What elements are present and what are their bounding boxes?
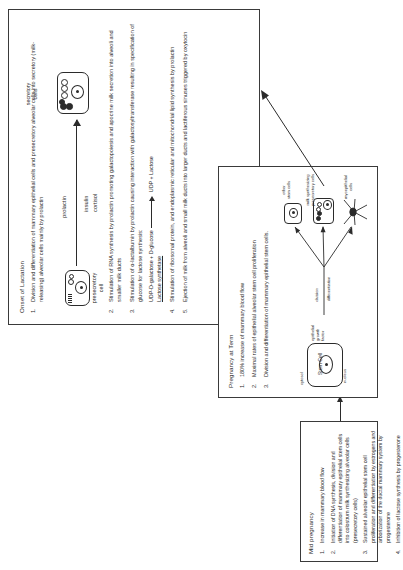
list-item-text: Increase in mammary blood flow: [319, 467, 325, 543]
presecretory-cell-output-icon: [313, 198, 334, 224]
presecretory-cell-label: presecretory cell: [91, 260, 105, 316]
list-item-number: 1.: [319, 545, 326, 554]
list-item-text: Stimulation of α-lactalbumin by prolacti…: [129, 24, 143, 302]
list-item: 1. 180% increase of mammary blood flow: [239, 175, 247, 388]
list-item-number: 2.: [251, 379, 259, 388]
list-item-number: 4.: [169, 304, 177, 313]
list-item-text: Ejection of milk from alveoli and small …: [182, 32, 188, 302]
myoepithelial-cells-label: myoepithelial cells: [343, 173, 353, 201]
reaction-arrow-group: [147, 194, 155, 228]
list-item: 4. Inhibition of lactose synthesis by pr…: [395, 428, 402, 554]
list-item: 2. Maximal rates of epithelial alveolar …: [251, 175, 259, 388]
lactose-reaction: UDP-D-galactose + D-glucose UDP + Lactos…: [147, 20, 163, 302]
list-item-text: Initiation of DNA synthesis, division an…: [330, 434, 358, 543]
hormone-insulin-label: insulin: [83, 196, 89, 212]
hormone-cortisol-label: cortisol: [92, 194, 98, 212]
list-item-text: 180% increase of mammary blood flow: [239, 283, 245, 377]
division-label: division: [314, 279, 319, 311]
list-item-text: Sustained alveolar epithelial stem cell …: [362, 431, 390, 543]
list-item: 3. Sustained alveolar epithelial stem ce…: [362, 428, 392, 554]
list-item-text: Maximal rates of epithelial alveolar ste…: [251, 240, 257, 377]
lactation-cell-diagram: presecretory cell secretory cells prolac…: [35, 18, 121, 310]
list-item-number: 4.: [395, 545, 402, 554]
list-item: 3. Stimulation of α-lactalbumin by prola…: [129, 20, 163, 313]
mid-pregnancy-list: 1. Increase in mammary blood flow 2. Ini…: [319, 428, 403, 554]
list-item: 4. Stimulation of ribosomal protein, and…: [169, 20, 177, 313]
hormone-prolactin-label: prolactin: [61, 196, 67, 218]
panel-pregnancy-at-term: Pregnancy at Term 1. 180% increase of ma…: [218, 166, 378, 398]
reaction-products: UDP + Lactose: [148, 156, 154, 192]
connector-term-to-lactation-icon: [258, 80, 328, 190]
panel-mid-pregnancy: Mid pregnancy 1. Increase in mammary blo…: [300, 421, 378, 562]
list-item-number: 3.: [362, 545, 369, 554]
list-item: 1. Increase in mammary blood flow: [319, 428, 326, 554]
reaction-reactants: UDP-D-galactose + D-glucose: [148, 230, 154, 302]
myoepithelial-cell-icon: [339, 197, 369, 227]
differentiation-label: differentiation: [326, 269, 331, 309]
list-item-text: Division and differentiation of mammary …: [263, 231, 269, 377]
list-item: 3. Division and differentiation of mamma…: [263, 175, 271, 388]
secretory-cells-icon: [57, 72, 89, 114]
list-item-number: 2.: [330, 545, 337, 554]
reaction-line: UDP-D-galactose + D-glucose UDP + Lactos…: [147, 20, 155, 302]
list-item: 2. Initiation of DNA synthesis, division…: [330, 428, 360, 554]
panel-title-pregnancy-at-term: Pregnancy at Term: [227, 175, 234, 388]
stem-cell-differentiation-diagram: cytosol nucleus Stem Cell epithelial gro…: [277, 173, 373, 387]
list-item-number: 3.: [129, 304, 137, 313]
list-item: 5. Ejection of milk from alveoli and sma…: [182, 20, 190, 313]
connector-mid-to-term-icon: [336, 395, 344, 421]
other-stem-cell-icon: [284, 203, 302, 224]
list-item-text: Inhibition of lactose synthesis by proge…: [395, 435, 401, 543]
reaction-arrow-icon: [148, 194, 155, 228]
pregnancy-at-term-list: 1. 180% increase of mammary blood flow 2…: [239, 175, 270, 388]
reaction-enzyme: Lactose synthetase: [155, 20, 163, 302]
hormone-arrow-icon: [76, 120, 77, 266]
list-item-text: Stimulation of ribosomal protein, and en…: [169, 47, 175, 302]
presecretory-cell-icon: [65, 270, 90, 306]
list-item-number: 5.: [182, 304, 190, 313]
panel-title-onset-of-lactation: Onset of Lactation: [18, 20, 25, 313]
list-item-number: 1.: [239, 379, 247, 388]
panel-title-mid-pregnancy: Mid pregnancy: [307, 428, 314, 554]
list-item-number: 3.: [263, 379, 271, 388]
secretory-cells-label: secretory cells: [25, 64, 39, 124]
